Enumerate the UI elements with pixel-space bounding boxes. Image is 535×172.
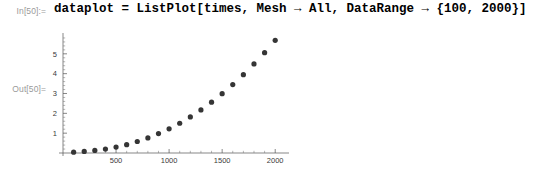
data-points [71, 38, 278, 155]
y-tick-label: 1 [53, 129, 57, 138]
data-point [273, 38, 278, 43]
data-point [209, 100, 214, 105]
data-point [262, 50, 267, 55]
scatter-plot-svg: 500100015002000 12345 [44, 16, 296, 166]
data-point [124, 142, 129, 147]
y-axis: 12345 [53, 33, 67, 156]
data-point [103, 146, 108, 151]
data-point [188, 114, 193, 119]
x-tick-label: 1500 [214, 156, 231, 165]
notebook-cell-group: In[50]:= dataplot = ListPlot[times, Mesh… [0, 0, 535, 172]
input-code-expression[interactable]: dataplot = ListPlot[times, Mesh → All, D… [54, 2, 527, 16]
y-tick-label: 2 [53, 109, 57, 118]
data-point [156, 131, 161, 136]
data-point [71, 150, 76, 155]
input-cell-label: In[50]:= [0, 6, 46, 16]
data-point [82, 149, 87, 154]
data-point [113, 144, 118, 149]
data-point [177, 121, 182, 126]
y-tick-label: 5 [53, 50, 57, 59]
data-point [92, 148, 97, 153]
data-point [230, 82, 235, 87]
x-tick-label: 2000 [267, 156, 284, 165]
listplot-graphic[interactable]: 500100015002000 12345 [44, 16, 296, 166]
output-cell-label: Out[50]= [0, 84, 46, 94]
y-tick-label: 4 [53, 69, 57, 78]
data-point [145, 135, 150, 140]
x-tick-label: 1000 [161, 156, 178, 165]
x-tick-label: 500 [110, 156, 123, 165]
data-point [135, 139, 140, 144]
data-point [251, 61, 256, 66]
data-point [167, 126, 172, 131]
y-tick-label: 3 [53, 89, 57, 98]
data-point [198, 107, 203, 112]
data-point [220, 91, 225, 96]
data-point [241, 72, 246, 77]
